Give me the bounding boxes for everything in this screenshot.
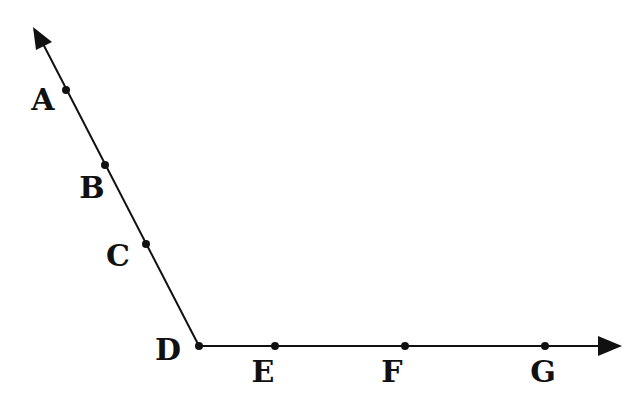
- geometry-diagram: ABCDEFG: [0, 0, 643, 409]
- point-f-label: F: [381, 354, 402, 389]
- arrowhead-icon: [598, 336, 622, 356]
- point-f-dot: [401, 342, 409, 350]
- point-b-label: B: [79, 170, 104, 205]
- point-d-dot: [195, 342, 203, 350]
- point-g-label: G: [530, 354, 556, 389]
- point-e-label: E: [252, 354, 275, 389]
- point-c-label: C: [106, 238, 130, 273]
- ray-right: [199, 336, 622, 356]
- point-c-dot: [142, 240, 150, 248]
- point-g-dot: [541, 342, 549, 350]
- point-a-label: A: [30, 82, 55, 117]
- point-a-dot: [62, 86, 70, 94]
- point-d-label: D: [155, 332, 181, 367]
- arrowhead-icon: [33, 27, 52, 50]
- ray-upper-left: [33, 27, 199, 346]
- point-b-dot: [101, 161, 109, 169]
- point-e-dot: [271, 342, 279, 350]
